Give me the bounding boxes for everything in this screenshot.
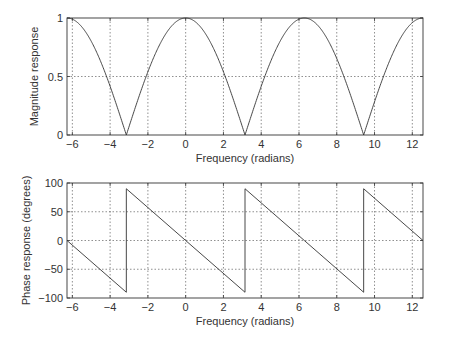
x-tick-label: 10 — [368, 138, 380, 150]
y-axis-label: Magnitude response — [28, 27, 40, 127]
x-tick-labels: −6−4−2024681012 — [66, 301, 418, 313]
y-axis-label: Phase response (degrees) — [20, 176, 32, 306]
x-tick-label: −6 — [66, 301, 79, 313]
x-tick-label: −6 — [66, 138, 79, 150]
x-tick-label: 0 — [183, 138, 189, 150]
y-tick-label: 0 — [57, 129, 63, 141]
x-tick-label: 0 — [183, 301, 189, 313]
y-tick-label: 0.5 — [48, 71, 63, 83]
x-tick-label: 12 — [406, 138, 418, 150]
y-tick-label: 1 — [57, 12, 63, 24]
x-tick-label: −4 — [104, 138, 117, 150]
y-tick-label: 0 — [57, 235, 63, 247]
phase-plot: −6−4−2024681012−100−50050100Frequency (r… — [20, 176, 423, 327]
y-tick-label: −100 — [38, 292, 63, 304]
magnitude-plot: −6−4−202468101200.51Frequency (radians)M… — [28, 12, 423, 164]
y-tick-label: 50 — [51, 206, 63, 218]
y-tick-label: −50 — [44, 263, 63, 275]
x-tick-label: 8 — [334, 301, 340, 313]
chart-canvas: −6−4−202468101200.51Frequency (radians)M… — [0, 0, 449, 344]
x-axis-label: Frequency (radians) — [196, 315, 294, 327]
x-tick-label: 8 — [334, 138, 340, 150]
x-tick-label: 12 — [406, 301, 418, 313]
x-tick-label: 6 — [296, 138, 302, 150]
x-tick-label: −2 — [142, 301, 155, 313]
y-tick-labels: 00.51 — [48, 12, 63, 141]
x-tick-label: 4 — [258, 138, 264, 150]
x-tick-label: 4 — [258, 301, 264, 313]
x-tick-label: 2 — [220, 138, 226, 150]
x-tick-label: 10 — [368, 301, 380, 313]
y-tick-labels: −100−50050100 — [38, 177, 63, 304]
x-tick-labels: −6−4−2024681012 — [66, 138, 418, 150]
x-tick-label: −4 — [104, 301, 117, 313]
x-tick-label: −2 — [142, 138, 155, 150]
x-tick-label: 2 — [220, 301, 226, 313]
x-axis-label: Frequency (radians) — [196, 152, 294, 164]
y-tick-label: 100 — [45, 177, 63, 189]
x-tick-label: 6 — [296, 301, 302, 313]
